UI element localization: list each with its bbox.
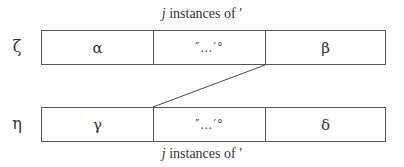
bottom-caption: j instances of ′: [0, 146, 404, 162]
bottom-row-cell-delta: δ: [266, 108, 385, 141]
bottom-row: γ ″…′° δ: [41, 107, 386, 142]
bottom-caption-text: instances of ′: [166, 146, 243, 161]
bottom-row-cell-primes: ″…′°: [154, 108, 266, 141]
row-label-eta: η: [7, 114, 27, 133]
bottom-row-cell-gamma: γ: [42, 108, 154, 141]
